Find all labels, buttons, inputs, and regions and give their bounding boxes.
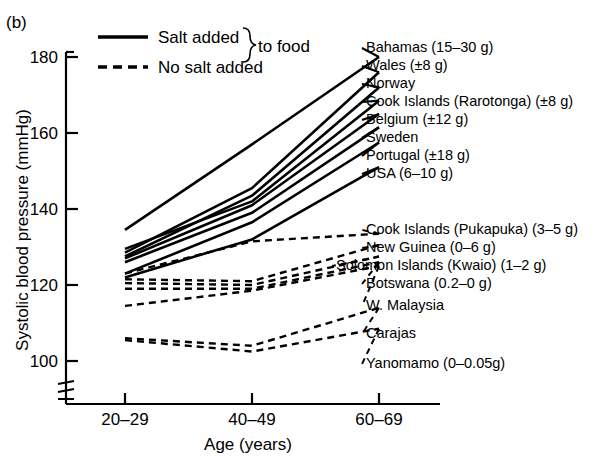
series-line <box>125 143 379 274</box>
chart-svg: (b) Salt added No salt added to food <box>0 0 600 456</box>
y-tick-160: 160 <box>30 124 78 143</box>
panel-letter: (b) <box>6 13 27 32</box>
x-tick-label-20-29: 20–29 <box>101 410 148 429</box>
y-tick-label-100: 100 <box>30 352 58 371</box>
series-line <box>125 101 379 249</box>
x-tick-label-60-69: 60–69 <box>355 410 402 429</box>
brace-icon <box>243 28 256 62</box>
x-tick-label-40-49: 40–49 <box>228 410 275 429</box>
series-label: Sweden <box>366 129 418 145</box>
series-label: Carajas <box>366 325 416 341</box>
series-label: Wales (±8 g) <box>366 57 448 73</box>
legend-solid-label: Salt added <box>158 28 239 47</box>
series-label-layer: Bahamas (15–30 g)Wales (±8 g)NorwayCook … <box>336 39 578 371</box>
series-line <box>125 72 379 253</box>
series-label: Botswana (0.2–0 g) <box>366 275 492 291</box>
series-label: Norway <box>366 75 416 91</box>
x-axis-title: Age (years) <box>204 435 292 454</box>
y-tick-140: 140 <box>30 200 78 219</box>
y-tick-label-180: 180 <box>30 48 58 67</box>
brace-label: to food <box>258 37 310 56</box>
x-tick-40-49: 40–49 <box>228 393 275 429</box>
series-label: W. Malaysia <box>366 297 445 313</box>
series-layer <box>125 48 379 364</box>
series-label: Bahamas (15–30 g) <box>366 39 493 55</box>
series-label: USA (6–10 g) <box>366 165 453 181</box>
series-label: Belgium (±12 g) <box>366 111 468 127</box>
series-label: New Guinea (0–6 g) <box>366 239 496 255</box>
y-tick-180: 180 <box>30 48 78 67</box>
x-tick-60-69: 60–69 <box>355 393 402 429</box>
series-label: Solomon Islands (Kwaio) (1–2 g) <box>336 257 546 273</box>
series-label: Cook Islands (Rarotonga) (±8 g) <box>366 93 573 109</box>
y-tick-label-160: 160 <box>30 124 58 143</box>
y-tick-label-120: 120 <box>30 276 58 295</box>
chart-figure: (b) Salt added No salt added to food <box>0 0 600 456</box>
y-tick-120: 120 <box>30 276 78 295</box>
series-line <box>125 308 379 346</box>
series-label: Yanomamo (0–0.05g) <box>366 355 505 371</box>
series-label: Portugal (±18 g) <box>366 147 470 163</box>
series-label: Cook Islands (Pukapuka) (3–5 g) <box>366 221 578 237</box>
series-line <box>125 87 379 256</box>
y-tick-100: 100 <box>30 352 78 371</box>
y-tick-label-140: 140 <box>30 200 58 219</box>
x-tick-20-29: 20–29 <box>101 393 148 429</box>
y-axis-title: Systolic blood pressure (mmHg) <box>13 109 32 351</box>
legend: Salt added No salt added to food <box>98 28 310 77</box>
